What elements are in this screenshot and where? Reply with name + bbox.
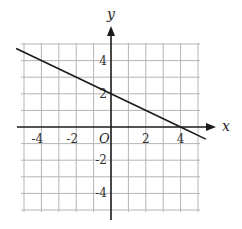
x-axis-label: x [222,118,230,134]
y-tick-label: -2 [95,153,107,167]
y-axis-label: y [106,6,116,22]
y-axis-arrow-icon [107,26,115,36]
x-tick-label: 4 [177,132,185,146]
y-tick-label: -4 [95,186,107,200]
origin-label: O [99,131,110,146]
x-tick-label: -4 [32,132,44,146]
x-axis-arrow-icon [206,123,216,131]
x-tick-label: -2 [66,132,78,146]
coordinate-plane: x y O -4-22442-2-4 [0,0,242,229]
x-tick-label: 2 [142,132,150,146]
y-tick-label: 4 [99,54,107,68]
